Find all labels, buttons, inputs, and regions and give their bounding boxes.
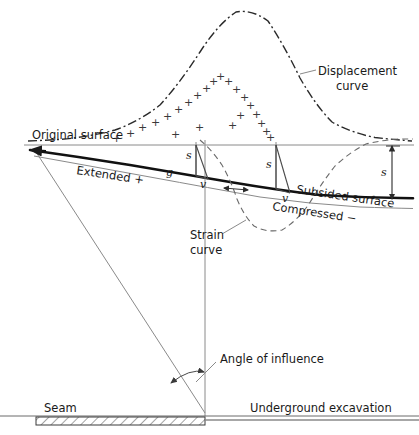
label-original-surface: Original surface [32,128,123,142]
svg-text:+: + [151,116,160,129]
diagram-canvas: + + + + + + + + + + + + + + + + + + + + … [0,0,419,435]
vector-marker-mid [276,145,290,193]
svg-text:+: + [236,109,245,122]
label-seam: Seam [44,401,77,415]
label-v-left: v [200,178,207,191]
label-s-mid: s [266,158,272,171]
svg-text:+: + [171,128,180,141]
seam-hatched-band [36,417,205,425]
subsided-surface-left-arrow [31,150,46,151]
strain-label-leader [222,220,246,234]
label-underground-excavation: Underground excavation [250,401,392,415]
svg-text:+: + [184,96,193,109]
svg-text:+: + [193,89,202,102]
svg-text:+: + [174,103,183,116]
g-extent-marker [224,188,248,190]
plus-marker-cloud: + + + + + + + + + + + + + + + + + + + + … [112,70,275,145]
dimension-s-right [386,146,400,199]
svg-text:+: + [195,121,204,134]
label-s-right: s [381,166,387,179]
angle-label-leader [196,362,216,382]
label-displacement-curve-line1: Displacement [318,64,398,78]
svg-text:+: + [126,127,135,140]
label-angle-of-influence: Angle of influence [220,352,324,366]
subsidence-diagram-figure: + + + + + + + + + + + + + + + + + + + + … [0,0,419,435]
label-strain-curve-line2: curve [190,243,222,257]
svg-text:+: + [163,110,172,123]
label-g: g [166,166,173,179]
svg-text:+: + [138,121,147,134]
svg-text:+: + [266,131,275,144]
vector-marker-left [196,145,208,179]
displacement-label-leader [300,70,316,74]
label-strain-curve-line1: Strain [190,228,224,242]
label-s-left: s [186,149,192,162]
label-displacement-curve-line2: curve [336,79,368,93]
left-influence-line [36,152,205,413]
angle-of-influence-arc [171,371,204,383]
